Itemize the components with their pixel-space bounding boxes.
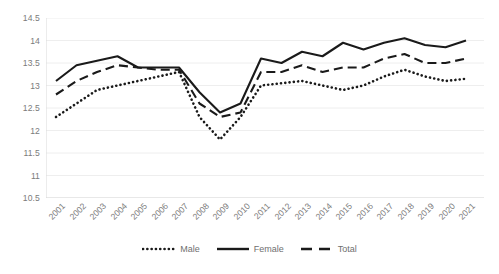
x-tick-label: 2012 (272, 201, 293, 222)
line-chart: 14.51413.51312.51211.51110.5 20012002200… (0, 0, 499, 274)
plot-svg (46, 18, 484, 198)
legend-item-total[interactable]: Total (300, 244, 357, 254)
x-tick-label: 2014 (313, 201, 334, 222)
plot-area (46, 18, 484, 198)
legend-item-female[interactable]: Female (216, 244, 284, 254)
legend-label: Male (180, 244, 200, 254)
y-tick-label: 13.5 (23, 58, 40, 68)
x-tick-label: 2013 (292, 201, 313, 222)
x-tick-label: 2020 (436, 201, 457, 222)
legend-label: Total (338, 244, 357, 254)
x-tick-label: 2017 (374, 201, 395, 222)
y-tick-label: 11 (31, 171, 40, 181)
y-tick-label: 12 (30, 126, 40, 136)
chart-legend: MaleFemaleTotal (0, 238, 499, 260)
x-tick-label: 2003 (87, 201, 108, 222)
series-line-male (56, 70, 466, 140)
x-tick-label: 2006 (149, 201, 170, 222)
x-tick-label: 2019 (415, 201, 436, 222)
y-tick-label: 11.5 (24, 148, 41, 158)
x-tick-label: 2002 (67, 201, 88, 222)
x-tick-label: 2015 (333, 201, 354, 222)
y-axis: 14.51413.51312.51211.51110.5 (0, 18, 40, 198)
x-axis: 2001200220032004200520062007200820092010… (46, 198, 484, 238)
x-tick-label: 2009 (210, 201, 231, 222)
y-tick-label: 14.5 (23, 13, 40, 23)
dashed-line-swatch (300, 244, 334, 254)
x-tick-label: 2001 (46, 201, 67, 222)
solid-line-swatch (216, 244, 250, 254)
x-tick-label: 2016 (354, 201, 375, 222)
dotted-line-swatch (142, 244, 176, 254)
legend-item-male[interactable]: Male (142, 244, 200, 254)
x-tick-label: 2007 (169, 201, 190, 222)
x-tick-label: 2018 (395, 201, 416, 222)
x-tick-label: 2008 (190, 201, 211, 222)
y-tick-label: 13 (30, 81, 40, 91)
x-tick-label: 2004 (108, 201, 129, 222)
y-tick-label: 14 (30, 36, 40, 46)
y-tick-label: 12.5 (23, 103, 40, 113)
x-tick-label: 2021 (456, 201, 477, 222)
x-tick-label: 2011 (252, 201, 272, 221)
legend-label: Female (254, 244, 284, 254)
x-tick-label: 2010 (231, 201, 252, 222)
x-tick-label: 2005 (128, 201, 149, 222)
y-tick-label: 10.5 (23, 193, 40, 203)
series-line-female (56, 38, 466, 112)
